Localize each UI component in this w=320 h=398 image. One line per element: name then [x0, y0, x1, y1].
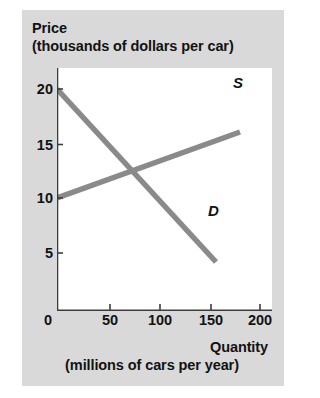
supply-demand-plot	[57, 68, 272, 311]
x-tick-label-50: 50	[102, 313, 118, 328]
x-tick-label-200: 200	[248, 313, 272, 328]
plot-area	[57, 68, 272, 311]
y-axis-title: Price (thousands of dollars per car)	[32, 19, 282, 55]
demand-curve-line	[57, 89, 216, 262]
x-tick-label-0: 0	[44, 313, 52, 328]
x-axis-title: Quantity (millions of cars per year)	[26, 338, 278, 374]
x-tick-label-150: 150	[199, 313, 223, 328]
x-axis-tick-labels: 0 50 100 150 200	[22, 313, 284, 333]
supply-curve-label: S	[233, 75, 243, 90]
y-tick-label-5: 5	[25, 246, 53, 261]
demand-curve-label: D	[208, 203, 219, 218]
y-axis-tick-labels: 20 15 10 5	[22, 68, 53, 311]
figure-card: Price (thousands of dollars per car)	[22, 10, 284, 386]
y-axis-title-line1: Price	[32, 19, 282, 37]
y-tick-label-20: 20	[25, 82, 53, 97]
x-axis-title-line1: Quantity	[26, 338, 278, 356]
y-tick-label-15: 15	[25, 138, 53, 153]
y-axis-title-line2: (thousands of dollars per car)	[32, 37, 282, 55]
x-tick-label-100: 100	[148, 313, 172, 328]
x-axis-title-line2: (millions of cars per year)	[26, 356, 278, 374]
y-tick-label-10: 10	[25, 191, 53, 206]
